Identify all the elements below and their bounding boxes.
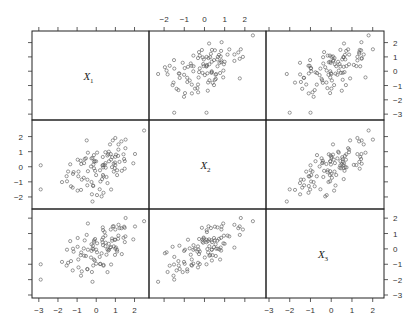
data-point bbox=[117, 237, 120, 240]
data-point bbox=[189, 253, 192, 256]
data-point bbox=[122, 153, 125, 156]
data-point bbox=[298, 61, 301, 64]
data-point bbox=[203, 256, 206, 259]
data-point bbox=[123, 157, 126, 160]
tick-label: 1 bbox=[393, 230, 398, 239]
data-point bbox=[233, 59, 236, 62]
data-point bbox=[251, 220, 254, 223]
data-point bbox=[207, 225, 210, 228]
data-point bbox=[110, 188, 113, 191]
data-point bbox=[65, 175, 68, 178]
data-point bbox=[76, 236, 79, 239]
data-point bbox=[324, 66, 327, 69]
data-point bbox=[123, 160, 126, 163]
data-point bbox=[325, 69, 328, 72]
data-point bbox=[198, 237, 201, 240]
data-point bbox=[214, 77, 217, 80]
data-point bbox=[76, 189, 79, 192]
data-point bbox=[251, 34, 254, 37]
data-point bbox=[65, 180, 68, 183]
data-point bbox=[99, 180, 102, 183]
data-point bbox=[309, 59, 312, 62]
data-point bbox=[307, 72, 310, 75]
data-point bbox=[330, 87, 333, 90]
data-point bbox=[313, 89, 316, 92]
data-point bbox=[198, 67, 201, 70]
data-point bbox=[172, 59, 175, 62]
data-point bbox=[332, 59, 335, 62]
data-point bbox=[80, 270, 83, 273]
data-point bbox=[356, 153, 359, 156]
data-point bbox=[336, 157, 339, 160]
data-point bbox=[89, 256, 92, 259]
data-point bbox=[200, 48, 203, 51]
data-point bbox=[86, 184, 89, 187]
data-point bbox=[86, 248, 89, 251]
data-point bbox=[362, 143, 365, 146]
data-point bbox=[293, 81, 296, 84]
tick-label: −2 bbox=[285, 306, 295, 315]
data-point bbox=[109, 228, 112, 231]
data-point bbox=[67, 170, 70, 173]
data-point bbox=[118, 227, 121, 230]
data-point bbox=[285, 72, 288, 75]
data-point bbox=[163, 66, 166, 69]
data-point bbox=[219, 71, 222, 74]
data-point bbox=[65, 248, 68, 251]
data-point bbox=[197, 51, 200, 54]
tick-label: −3 bbox=[34, 306, 44, 315]
data-point bbox=[98, 255, 101, 258]
data-point bbox=[106, 182, 109, 185]
data-point bbox=[325, 81, 328, 84]
tick-label: −2 bbox=[393, 96, 403, 105]
data-point bbox=[182, 95, 185, 98]
data-point bbox=[90, 180, 93, 183]
data-point bbox=[124, 138, 127, 141]
data-point bbox=[106, 271, 109, 274]
data-point bbox=[344, 158, 347, 161]
data-point bbox=[210, 259, 213, 262]
data-point bbox=[90, 193, 93, 196]
data-point bbox=[210, 60, 213, 63]
data-point bbox=[178, 244, 181, 247]
data-point bbox=[95, 174, 98, 177]
data-point bbox=[198, 71, 201, 74]
data-point bbox=[371, 138, 374, 141]
data-point bbox=[113, 253, 116, 256]
data-point bbox=[339, 48, 342, 51]
data-point bbox=[307, 191, 310, 194]
data-point bbox=[183, 67, 186, 70]
tick-label: 0 bbox=[393, 245, 398, 254]
data-point bbox=[329, 76, 332, 79]
data-point bbox=[83, 239, 86, 242]
data-point bbox=[96, 242, 99, 245]
tick-label: −3 bbox=[393, 110, 403, 119]
data-point bbox=[309, 164, 312, 167]
data-point bbox=[326, 87, 329, 90]
data-point bbox=[102, 191, 105, 194]
data-point bbox=[186, 80, 189, 83]
tick-label: −3 bbox=[264, 306, 274, 315]
data-point bbox=[96, 151, 99, 154]
data-point bbox=[186, 65, 189, 68]
data-point bbox=[319, 67, 322, 70]
data-point bbox=[329, 92, 332, 95]
data-point bbox=[359, 155, 362, 158]
panel-X1-vs-X3 bbox=[285, 34, 374, 115]
data-point bbox=[309, 188, 312, 191]
data-point bbox=[166, 270, 169, 273]
tick-label: −1 bbox=[180, 15, 190, 24]
data-point bbox=[95, 194, 98, 197]
data-point bbox=[143, 220, 146, 223]
data-point bbox=[104, 151, 107, 154]
data-point bbox=[105, 253, 108, 256]
data-point bbox=[133, 152, 136, 155]
data-point bbox=[90, 270, 93, 273]
data-point bbox=[79, 274, 82, 277]
data-point bbox=[190, 258, 193, 261]
tick-label: −1 bbox=[306, 306, 316, 315]
data-point bbox=[181, 61, 184, 64]
data-point bbox=[92, 154, 95, 157]
data-point bbox=[356, 136, 359, 139]
data-point bbox=[342, 178, 345, 181]
